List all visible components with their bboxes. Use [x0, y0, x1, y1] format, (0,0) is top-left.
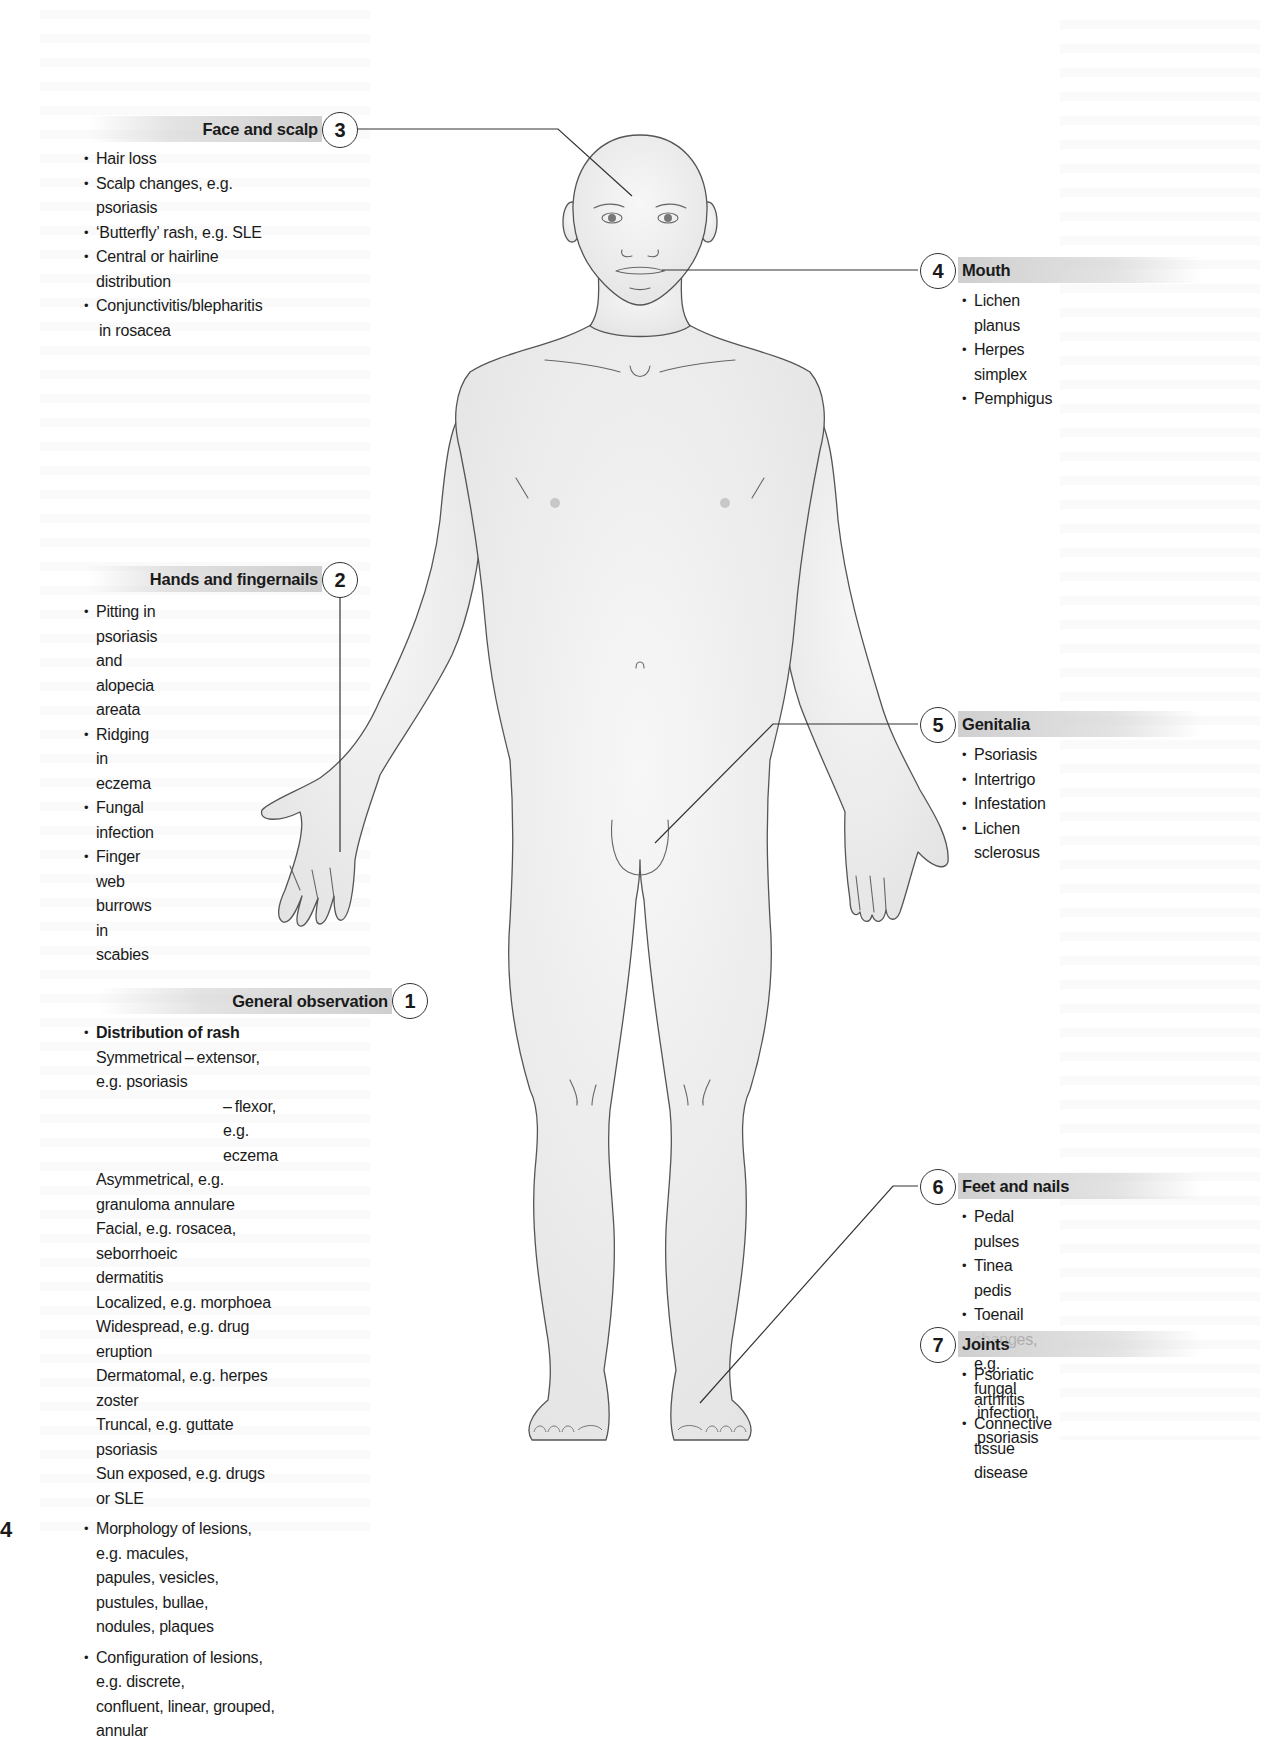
- list-item: Pemphigus: [962, 387, 1052, 412]
- list-item-subline: Localized, e.g. morphoea: [84, 1291, 278, 1316]
- callout-title: Hands and fingernails: [88, 566, 322, 592]
- list-item: Herpes simplex: [962, 338, 1052, 387]
- list-item: Morphology of lesions, e.g. macules,: [84, 1517, 278, 1566]
- list-item: Psoriatic arthritis: [962, 1363, 1052, 1412]
- callout-number-badge: 5: [920, 707, 956, 743]
- callout-title: General observation: [98, 988, 392, 1014]
- callout-title: Joints: [958, 1331, 1202, 1357]
- list-item: Intertrigo: [962, 768, 1046, 793]
- list-item-subline: dermatitis: [84, 1266, 278, 1291]
- list-item: Finger web burrows in scabies: [84, 845, 157, 968]
- list-item-subline: – flexor, e.g. eczema: [84, 1095, 278, 1169]
- list-item-heading: Distribution of rash: [96, 1024, 240, 1041]
- list-item: ‘Butterfly’ rash, e.g. SLE: [84, 221, 262, 246]
- list-item: Scalp changes, e.g. psoriasis: [84, 172, 262, 221]
- list-item-subline: Truncal, e.g. guttate psoriasis: [84, 1413, 278, 1462]
- list-item: Pitting in psoriasis and alopecia: [84, 600, 157, 698]
- list-item-subline: Asymmetrical, e.g. granuloma annulare: [84, 1168, 278, 1217]
- list-item: Tinea pedis: [962, 1254, 1039, 1303]
- list-item-subline: Widespread, e.g. drug eruption: [84, 1315, 278, 1364]
- callout-number-badge: 4: [920, 253, 956, 289]
- list-item: Hair loss: [84, 147, 262, 172]
- callout-number-badge: 7: [920, 1327, 956, 1363]
- list-item: Psoriasis: [962, 743, 1046, 768]
- callout-title: Face and scalp: [88, 116, 322, 142]
- list-item: Fungal infection: [84, 796, 157, 845]
- callout-title: Genitalia: [958, 711, 1202, 737]
- list-item-continuation: nodules, plaques: [84, 1615, 278, 1640]
- list-item-continuation: papules, vesicles, pustules, bullae,: [84, 1566, 278, 1615]
- left-arm: [262, 400, 482, 926]
- callout-number-badge: 6: [920, 1169, 956, 1205]
- callout-list: Psoriatic arthritis Connective tissue di…: [962, 1363, 1052, 1486]
- list-item: Pedal pulses: [962, 1205, 1039, 1254]
- page-number: 4: [0, 1517, 12, 1543]
- list-item-continuation: areata: [84, 698, 157, 723]
- callout-number-badge: 2: [322, 562, 358, 598]
- list-item-subline: Sun exposed, e.g. drugs or SLE: [84, 1462, 278, 1511]
- callout-list: Pitting in psoriasis and alopecia areata…: [84, 600, 157, 968]
- callout-list: Psoriasis Intertrigo Infestation Lichen …: [962, 743, 1046, 866]
- callout-list: Distribution of rash Symmetrical – exten…: [84, 1021, 278, 1740]
- callout-list: Lichen planus Herpes simplex Pemphigus: [962, 289, 1052, 412]
- callout-title: Feet and nails: [958, 1173, 1202, 1199]
- list-item-subline: Facial, e.g. rosacea, seborrhoeic: [84, 1217, 278, 1266]
- list-item: Ridging in eczema: [84, 723, 157, 797]
- callout-number-badge: 1: [392, 983, 428, 1019]
- list-item: Configuration of lesions, e.g. discrete,: [84, 1646, 278, 1695]
- list-item: Connective tissue disease: [962, 1412, 1052, 1486]
- list-item-continuation: in rosacea: [84, 319, 262, 344]
- list-item: Lichen sclerosus: [962, 817, 1046, 866]
- list-item: Infestation: [962, 792, 1046, 817]
- callout-number-badge: 3: [322, 112, 358, 148]
- list-item: Distribution of rash: [84, 1021, 278, 1046]
- list-item: Conjunctivitis/blepharitis: [84, 294, 262, 319]
- list-item-subline: Symmetrical – extensor, e.g. psoriasis: [84, 1046, 278, 1095]
- torso-legs: [456, 322, 825, 1440]
- list-item-subline: Dermatomal, e.g. herpes zoster: [84, 1364, 278, 1413]
- callout-list: Hair loss Scalp changes, e.g. psoriasis …: [84, 147, 262, 343]
- callout-title: Mouth: [958, 257, 1202, 283]
- list-item: Central or hairline distribution: [84, 245, 262, 294]
- list-item: Lichen planus: [962, 289, 1052, 338]
- list-item-continuation: confluent, linear, grouped, annular: [84, 1695, 278, 1740]
